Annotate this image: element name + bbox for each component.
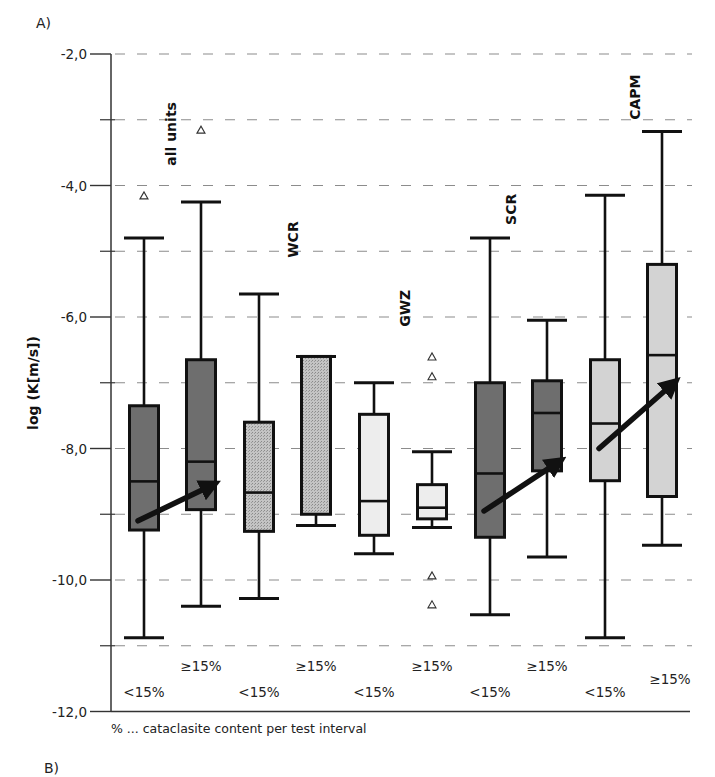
y-tick-label: -4,0 [61, 178, 87, 194]
category-label: <15% [123, 684, 164, 700]
group-label-scr: SCR [503, 194, 519, 225]
box-scr-lt15 [470, 238, 510, 615]
box-iqr [648, 264, 677, 496]
box-iqr [302, 356, 331, 514]
box-iqr [476, 383, 505, 538]
box-capm-ge15 [642, 132, 682, 546]
y-tick-label: -6,0 [61, 309, 87, 325]
outlier-triangle-icon [197, 126, 205, 133]
y-axis-label: log (K[m/s]) [25, 336, 41, 430]
box-all-units-lt15 [124, 192, 164, 638]
category-label: ≥15% [411, 658, 452, 674]
box-iqr [418, 485, 447, 519]
category-labels: <15%≥15%<15%≥15%<15%≥15%<15%≥15%<15%≥15% [123, 658, 690, 700]
category-label: <15% [238, 684, 279, 700]
y-tick-label: -2,0 [61, 46, 87, 62]
outlier-triangle-icon [428, 572, 436, 579]
box-gwz-ge15 [412, 353, 452, 608]
y-tick-label: -8,0 [61, 441, 87, 457]
group-label-gwz: GWZ [397, 290, 413, 327]
outlier-triangle-icon [428, 353, 436, 360]
box-iqr [360, 414, 389, 535]
box-iqr [533, 381, 562, 471]
category-label: <15% [469, 684, 510, 700]
category-label: ≥15% [526, 658, 567, 674]
box-wcr-ge15 [296, 356, 336, 525]
category-label: ≥15% [649, 671, 690, 687]
outlier-triangle-icon [140, 192, 148, 199]
category-label: ≥15% [295, 658, 336, 674]
category-label: <15% [353, 684, 394, 700]
category-label: ≥15% [180, 658, 221, 674]
category-label: <15% [584, 684, 625, 700]
y-tick-labels: -2,0-4,0-6,0-8,0-10,0-12,0 [52, 46, 87, 720]
box-scr-ge15 [527, 320, 567, 557]
group-label-all-units: all units [163, 102, 179, 166]
box-series [124, 126, 682, 638]
group-label-capm: CAPM [627, 74, 643, 119]
group-label-wcr: WCR [285, 221, 301, 258]
box-iqr [591, 360, 620, 481]
y-tick-label: -10,0 [52, 572, 87, 588]
boxplot-chart: A) -2,0-4,0-6,0-8,0-10,0-12,0 log (K[m/s… [0, 0, 715, 777]
box-all-units-ge15 [181, 126, 221, 606]
outlier-triangle-icon [428, 373, 436, 380]
outlier-triangle-icon [428, 601, 436, 608]
box-wcr-lt15 [239, 294, 279, 598]
y-tick-label: -12,0 [52, 704, 87, 720]
group-labels: all unitsWCRGWZSCRCAPM [163, 74, 643, 326]
box-gwz-lt15 [354, 383, 394, 554]
panel-label-b: B) [44, 760, 59, 776]
panel-label-a: A) [36, 15, 51, 31]
box-iqr [245, 422, 274, 531]
box-capm-lt15 [585, 195, 625, 637]
footnote: % ... cataclasite content per test inter… [111, 721, 367, 736]
